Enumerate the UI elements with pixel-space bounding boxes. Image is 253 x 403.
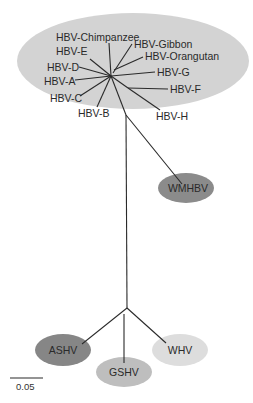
label-hbv-h: HBV-H: [156, 110, 188, 122]
label-hbv-e: HBV-E: [56, 45, 88, 57]
label-hbv-b: HBV-B: [78, 107, 110, 119]
branch-wmhbv: [126, 115, 182, 184]
phylogenetic-tree: HBV-Chimpanzee HBV-Gibbon HBV-Orangutan …: [0, 0, 253, 403]
label-ashv: ASHV: [49, 344, 78, 356]
label-hbv-orangutan: HBV-Orangutan: [145, 50, 219, 62]
label-hbv-c: HBV-C: [50, 92, 83, 104]
label-gshv: GSHV: [109, 366, 139, 378]
label-hbv-gibbon: HBV-Gibbon: [134, 38, 193, 50]
label-hbv-a: HBV-A: [44, 75, 76, 87]
label-hbv-d: HBV-D: [47, 61, 80, 73]
label-whv: WHV: [168, 344, 193, 356]
branch-whv: [127, 308, 166, 343]
label-wmhbv: WMHBV: [168, 182, 208, 194]
label-hbv-g: HBV-G: [157, 66, 190, 78]
label-hbv-chimpanzee: HBV-Chimpanzee: [56, 31, 140, 43]
label-hbv-f: HBV-F: [170, 83, 201, 95]
scale-bar-label: 0.05: [16, 381, 35, 392]
branch-ashv: [82, 308, 127, 344]
trunk-lower: [126, 115, 127, 308]
